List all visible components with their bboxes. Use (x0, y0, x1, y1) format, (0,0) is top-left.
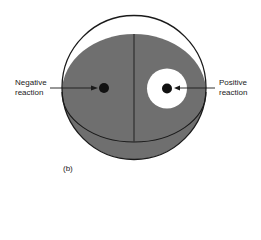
negative-label-line1: Negative (15, 78, 47, 88)
positive-disk (162, 84, 172, 94)
panel-label: (b) (63, 164, 73, 174)
positive-label-line2: reaction (219, 88, 247, 98)
positive-reaction-label: Positive reaction (219, 78, 247, 98)
negative-reaction-label: Negative reaction (15, 78, 47, 98)
negative-label-line2: reaction (15, 88, 47, 98)
positive-label-line1: Positive (219, 78, 247, 88)
negative-disk (99, 83, 109, 93)
